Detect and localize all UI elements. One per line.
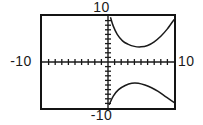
curve-lower-branch	[109, 83, 174, 104]
plot-canvas	[42, 16, 174, 108]
x-axis-max-label: 10	[178, 54, 203, 68]
x-axis-min-label: -10	[2, 54, 40, 68]
curve-upper-branch	[111, 18, 174, 47]
graphing-calculator-screen: 10 -10 10 -10	[0, 0, 203, 125]
y-axis-min-label: -10	[0, 108, 203, 122]
y-axis-max-label: 10	[0, 0, 203, 14]
plot-frame	[40, 14, 176, 110]
